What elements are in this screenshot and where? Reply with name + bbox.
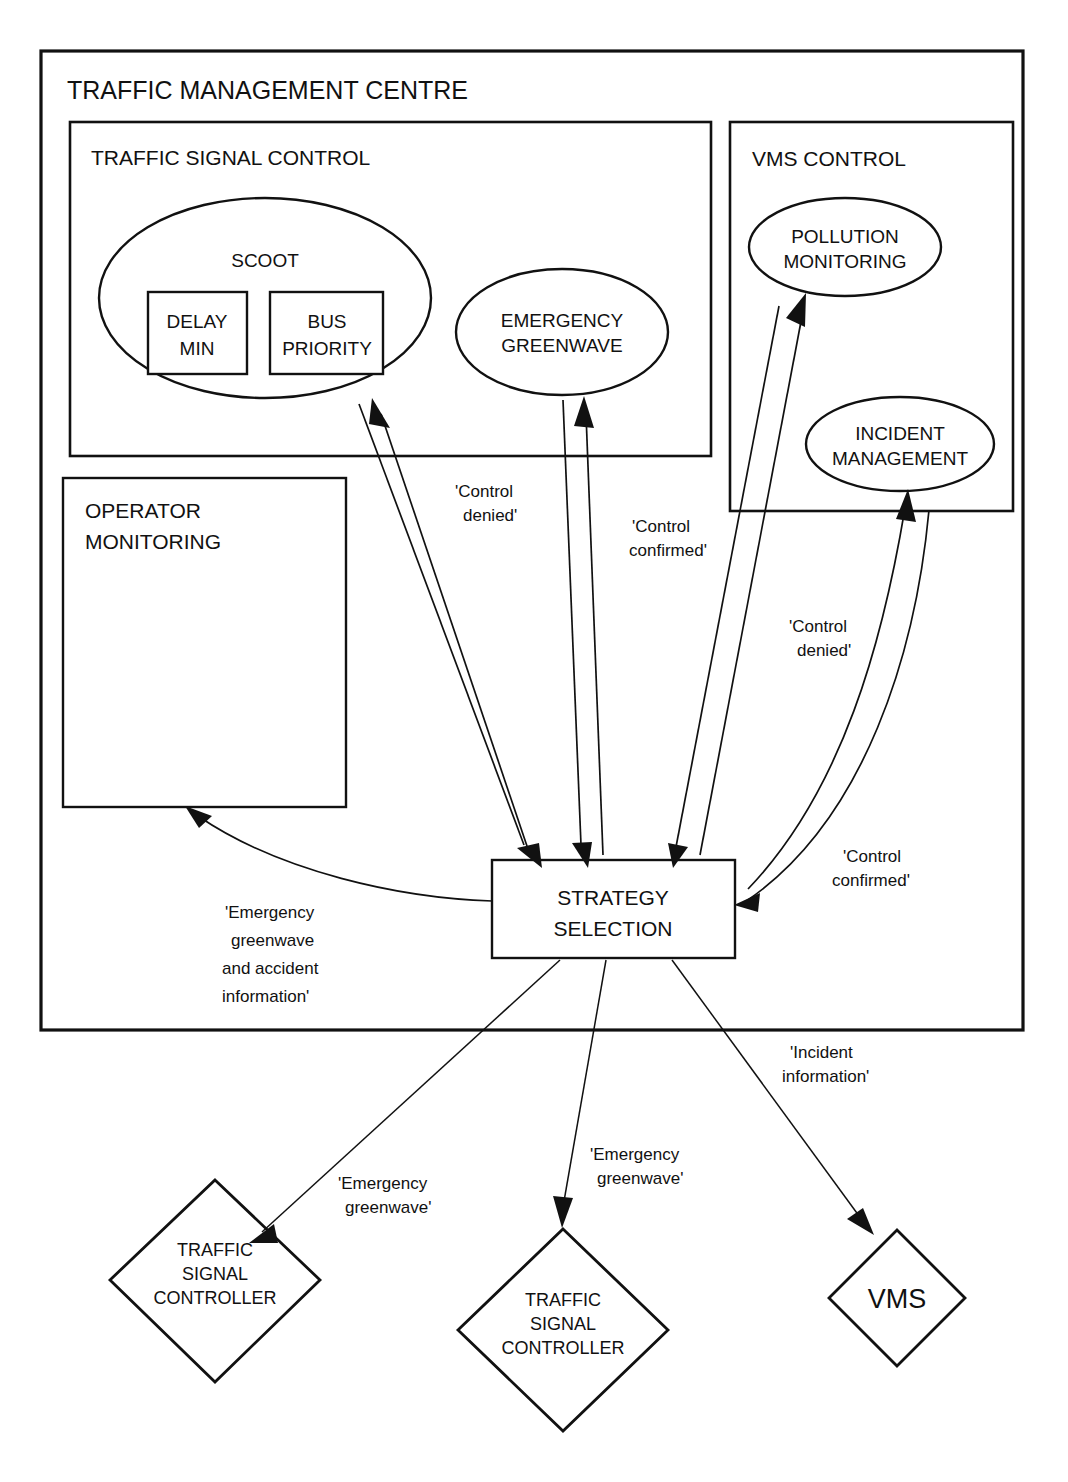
pollution-monitoring-label-line2: MONITORING	[783, 251, 906, 272]
bus-priority-label-line2: PRIORITY	[282, 338, 372, 359]
incident-management-label-line2: MANAGEMENT	[832, 448, 969, 469]
traffic-signal-controller-1-label-line2: SIGNAL	[182, 1264, 248, 1284]
traffic-signal-controller-1-label-line1: TRAFFIC	[177, 1240, 253, 1260]
emergency-greenwave-ellipse	[456, 269, 668, 395]
edge-label-operator-info-line4: information'	[222, 987, 309, 1006]
edge-label-emergency-greenwave-mid-line2: greenwave'	[597, 1169, 683, 1188]
edge-label-incident-information-line1: 'Incident	[790, 1043, 853, 1062]
traffic-signal-controller-2-label-line2: SIGNAL	[530, 1314, 596, 1334]
edge-label-operator-info-line1: 'Emergency	[225, 903, 315, 922]
strategy-selection-box	[492, 860, 735, 958]
delay-min-box	[148, 292, 247, 374]
pollution-monitoring-ellipse	[749, 198, 941, 296]
page-title: TRAFFIC MANAGEMENT CENTRE	[67, 76, 468, 104]
edge-label-emergency-greenwave-left-line2: greenwave'	[345, 1198, 431, 1217]
traffic-signal-controller-1-label-line3: CONTROLLER	[153, 1288, 276, 1308]
edge-label-control-denied-scoot-line2: denied'	[463, 506, 517, 525]
strategy-selection-label-line1: STRATEGY	[557, 886, 669, 909]
arrowhead-tsc-2-in	[553, 1196, 573, 1228]
edge-label-control-confirmed-vms-line2: confirmed'	[832, 871, 910, 890]
vms-label: VMS	[868, 1284, 927, 1314]
emergency-greenwave-label-line1: EMERGENCY	[501, 310, 624, 331]
edge-label-control-confirmed-greenwave-line1: 'Control	[632, 517, 690, 536]
operator-monitoring-label-line1: OPERATOR	[85, 499, 201, 522]
edge-label-operator-info-line3: and accident	[222, 959, 319, 978]
emergency-greenwave-label-line2: GREENWAVE	[501, 335, 622, 356]
bus-priority-box	[270, 292, 383, 374]
delay-min-label-line2: MIN	[180, 338, 215, 359]
arrowhead-vms-in	[847, 1208, 874, 1235]
delay-min-label-line1: DELAY	[167, 311, 228, 332]
traffic-signal-control-label: TRAFFIC SIGNAL CONTROL	[91, 146, 370, 169]
edge-label-control-denied-vms-line2: denied'	[797, 641, 851, 660]
edge-label-emergency-greenwave-left-line1: 'Emergency	[338, 1174, 428, 1193]
edge-label-control-denied-scoot-line1: 'Control	[455, 482, 513, 501]
traffic-management-diagram: TRAFFIC MANAGEMENT CENTRE TRAFFIC SIGNAL…	[0, 0, 1068, 1482]
edge-label-control-denied-vms-line1: 'Control	[789, 617, 847, 636]
vms-control-label: VMS CONTROL	[752, 147, 906, 170]
edge-label-emergency-greenwave-mid-line1: 'Emergency	[590, 1145, 680, 1164]
strategy-selection-label-line2: SELECTION	[553, 917, 672, 940]
edge-label-incident-information-line2: information'	[782, 1067, 869, 1086]
bus-priority-label-line1: BUS	[307, 311, 346, 332]
incident-management-ellipse	[806, 397, 994, 491]
edge-label-control-confirmed-vms-line1: 'Control	[843, 847, 901, 866]
operator-monitoring-label-line2: MONITORING	[85, 530, 221, 553]
diagram-page: TRAFFIC MANAGEMENT CENTRE TRAFFIC SIGNAL…	[0, 0, 1068, 1482]
traffic-signal-controller-2-label-line3: CONTROLLER	[501, 1338, 624, 1358]
edge-label-operator-info-line2: greenwave	[231, 931, 314, 950]
edge-label-control-confirmed-greenwave-line2: confirmed'	[629, 541, 707, 560]
pollution-monitoring-label-line1: POLLUTION	[791, 226, 899, 247]
traffic-signal-controller-2-label-line1: TRAFFIC	[525, 1290, 601, 1310]
operator-monitoring-box	[63, 478, 346, 807]
incident-management-label-line1: INCIDENT	[855, 423, 945, 444]
scoot-label: SCOOT	[231, 250, 299, 271]
